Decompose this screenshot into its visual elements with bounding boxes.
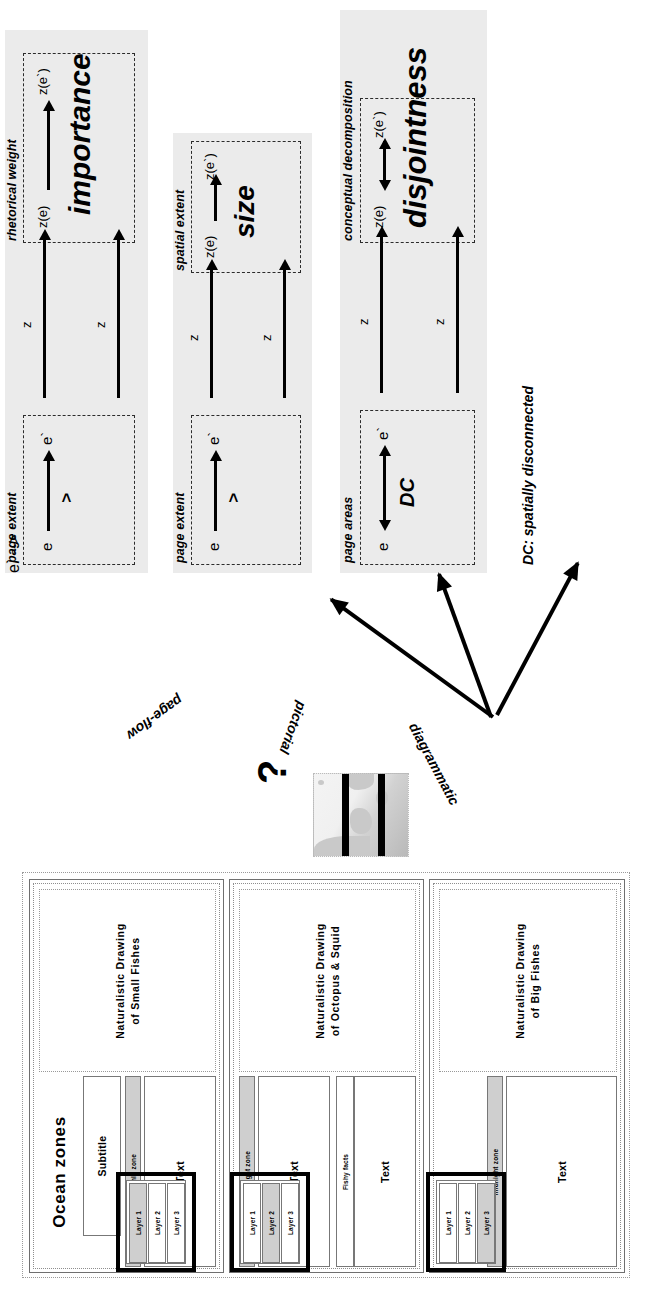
slide-1-subtitle: Subtitle (96, 1136, 108, 1177)
slide-3-picture-caption: Naturalistic Drawingof Big Fishes (513, 923, 543, 1039)
panel-importance-z-arrow-2-shaft (117, 238, 120, 398)
panel-disjointness-source-arrow-shaft (383, 453, 386, 523)
panel-disjointness-z-label-2: z (432, 319, 447, 326)
panel-size-target-arrow-head (210, 174, 222, 185)
slide-1-picture-caption-line1: Naturalistic Drawingof Small Fishes (113, 923, 140, 1039)
panel-importance-target-node-ze: z(e) (35, 206, 50, 228)
panel-disjointness-z-arrow-2-shaft (456, 235, 459, 393)
slide-2-extra-label: Fishy facts (342, 1153, 349, 1189)
panel-disjointness-source-node-e-prime: e` (374, 427, 391, 440)
panel-importance-source-label: page extent (5, 492, 19, 563)
slide-3-text-box: Text (506, 1076, 617, 1267)
slide-3-highlight-box (426, 1172, 506, 1272)
slide-1-title-box: Ocean zones (39, 1076, 81, 1267)
panel-size-z-arrow-1-shaft (210, 268, 213, 398)
panel-importance-z-label-1: z (19, 322, 34, 329)
thumbnail-column-bar-right (378, 774, 385, 856)
mapping-arrow-diagrammatic (495, 562, 579, 716)
panel-size-z-arrow-2-shaft (283, 268, 286, 398)
slide-2-highlight-box (230, 1172, 310, 1272)
slide-2-picture-caption: Naturalistic Drawingof Octopus & Squid (312, 923, 342, 1039)
panel-disjointness-target-node-ze: z(e) (371, 206, 386, 228)
slide-1-highlight-box (116, 1172, 196, 1272)
panel-size-source-node-e-prime: e` (205, 432, 222, 445)
slide-deck: Naturalistic Drawingof Small Fishes Ocea… (22, 872, 630, 1278)
slide-2-extra-text-box: Text (354, 1076, 416, 1267)
panel-importance: page extent rhetorical weight e e` e` --… (5, 30, 148, 573)
panel-disjointness-relation-name: disjointness (398, 47, 434, 228)
thumbnail-blob-3 (350, 808, 372, 834)
slide-1-title: Ocean zones (50, 1116, 70, 1227)
panel-importance-z-arrow-2-head (113, 229, 125, 240)
panel-disjointness-z-label-1: z (356, 319, 371, 326)
slide-3-picture-caption-line1: Naturalistic Drawingof Big Fishes (514, 923, 541, 1039)
panel-disjointness: page areas conceptual decomposition e e`… (340, 10, 487, 573)
panel-importance-source-arrow-head (43, 450, 55, 461)
panel-disjointness-z-arrow-1-shaft (380, 235, 383, 393)
panel-disjointness-target-node-ze-prime: z(e`) (371, 111, 386, 138)
panel-importance-source-node-e-prime: e` (38, 432, 55, 445)
panel-disjointness-target-arrow-head-right (379, 138, 391, 149)
panel-disjointness-target-arrow-head-left (379, 180, 391, 191)
panel-size-source-arrow-head (210, 450, 222, 461)
panel-size-target-node-ze: z(e) (202, 236, 217, 258)
slide-2-extra-text-label: Text (379, 1160, 391, 1182)
slide-2-picture-box: Naturalistic Drawingof Octopus & Squid (239, 889, 416, 1072)
dc-caption: DC: spatially disconnected (520, 386, 536, 565)
panel-importance-source-arrow-shaft (47, 459, 50, 531)
panel-size-target-arrow-shaft (214, 179, 217, 221)
panel-size: page extent spatial extent e e` > z(e) z… (173, 133, 312, 573)
panel-disjointness-target-label: conceptual decomposition (341, 80, 355, 241)
slide-2-extra-label-box: Fishy facts (336, 1076, 354, 1267)
panel-disjointness-source-arrow-head-right (379, 445, 391, 456)
thumbnail-blob-2 (348, 774, 374, 790)
panel-size-source-node-e: e (205, 543, 222, 551)
slide-1-picture-caption: Naturalistic Drawingof Small Fishes (112, 923, 142, 1039)
panel-size-source-label: page extent (173, 492, 187, 563)
source-document-thumbnail (313, 773, 409, 857)
panel-importance-relation-name: importance (63, 53, 97, 215)
mapping-arrow-pictorial-label: pictorial (276, 700, 310, 757)
slide-3-picture-box: Naturalistic Drawingof Big Fishes (439, 889, 617, 1072)
slide-2-picture-caption-line1: Naturalistic Drawingof Octopus & Squid (313, 923, 340, 1039)
panel-importance-z-label-2: z (93, 322, 108, 329)
panel-size-source-relation: > (224, 493, 244, 503)
panel-disjointness-z-arrow-1-head (376, 226, 388, 237)
panel-disjointness-z-arrow-2-head (452, 226, 464, 237)
panel-importance-target-arrow-head (43, 100, 55, 111)
panel-importance-target-label: rhetorical weight (5, 139, 19, 241)
panel-importance-target-arrow-shaft (47, 108, 50, 190)
thumbnail-blob-1 (318, 780, 324, 785)
panel-importance-z-arrow-1-head (39, 229, 51, 240)
panel-size-z-arrow-2-head (279, 259, 291, 270)
panel-size-source-arrow-shaft (214, 459, 217, 531)
thumbnail-column-bar-left (342, 774, 349, 856)
mapping-arrow-page-flow-label: page-flow (124, 692, 186, 743)
panel-size-z-label-1: z (186, 335, 201, 342)
panel-disjointness-source-arrow-head-left (379, 520, 391, 531)
slide-2[interactable]: Naturalistic Drawingof Octopus & Squid t… (229, 879, 424, 1273)
panel-disjointness-source-node-e: e (374, 543, 391, 551)
panel-size-target-label: spatial extent (173, 190, 187, 271)
slide-3[interactable]: Naturalistic Drawingof Big Fishes midnig… (429, 879, 625, 1273)
panel-importance-source-relation: > (57, 493, 77, 503)
panel-size-z-label-2: z (259, 335, 274, 342)
panel-size-z-arrow-1-head (206, 259, 218, 270)
panel-importance-z-arrow-1-shaft (43, 238, 46, 398)
slide-3-text-label: Text (556, 1160, 568, 1182)
panel-disjointness-source-relation: DC (396, 478, 419, 507)
slide-1-picture-box: Naturalistic Drawingof Small Fishes (39, 889, 216, 1072)
panel-importance-target-node-ze-prime: z(e`) (35, 68, 50, 95)
panel-disjointness-source-label: page areas (341, 497, 355, 563)
mapping-arrow-diagrammatic-label: diagrammatic (406, 720, 463, 808)
panel-importance-source-node-e: e (38, 543, 55, 551)
panel-size-relation-name: size (229, 185, 261, 238)
slide-1[interactable]: Naturalistic Drawingof Small Fishes Ocea… (29, 879, 224, 1273)
question-mark: ? (252, 760, 292, 784)
